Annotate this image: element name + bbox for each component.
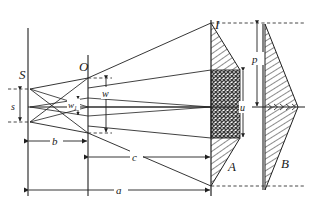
diagram-canvas: s b c a w w1 u p S O I A B	[0, 0, 312, 214]
dimension-w-label: w	[102, 88, 109, 99]
label-shape-a: A	[227, 159, 236, 174]
dimension-a-label: a	[116, 184, 122, 196]
dimension-b-label: b	[52, 135, 58, 147]
ray-lens-top-to-image-top	[88, 23, 211, 78]
ray-bundle-outer	[30, 23, 211, 186]
dimension-u-label: u	[240, 102, 245, 113]
ray-s-top-to-lens-top	[30, 78, 88, 89]
optics-ray-diagram: s b c a w w1 u p S O I A B	[0, 0, 312, 214]
dimension-s-label: s	[11, 101, 15, 112]
ray-s-bot-to-lens-bot	[30, 122, 88, 133]
label-shape-b: B	[281, 156, 289, 171]
dimension-c-label: c	[132, 151, 137, 163]
shape-a-core-dark	[211, 70, 240, 138]
ray-cross-top-down	[30, 89, 88, 133]
label-source-s: S	[19, 67, 26, 82]
ray-lens-bot-to-image-bot	[88, 133, 211, 186]
label-image-i: I	[214, 17, 220, 32]
label-lens-o: O	[79, 59, 89, 74]
dimension-p-label: p	[251, 53, 258, 65]
